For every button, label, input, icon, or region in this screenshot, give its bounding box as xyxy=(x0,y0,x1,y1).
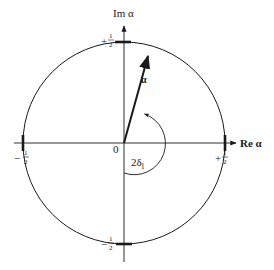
svg-text:1: 1 xyxy=(24,149,28,157)
tick-label-bottom: − 1 2 xyxy=(101,235,114,252)
svg-text:−: − xyxy=(101,238,107,250)
svg-text:−: − xyxy=(14,152,20,164)
svg-text:2: 2 xyxy=(223,158,227,166)
svg-text:+: + xyxy=(215,152,221,164)
tick-label-right: + 1 2 xyxy=(215,149,228,166)
angle-label: 2δl xyxy=(131,156,145,171)
svg-text:2: 2 xyxy=(109,41,113,49)
argand-diagram: Im α Re α 0 α 2δl + 1 2 − 1 2 + 1 2 − 1 … xyxy=(0,0,274,270)
svg-text:+: + xyxy=(101,35,107,47)
tick-label-left: − 1 2 xyxy=(14,149,29,166)
amplitude-vector xyxy=(124,56,148,143)
vector-label: α xyxy=(141,74,147,85)
svg-text:2: 2 xyxy=(109,244,113,252)
tick-label-top: + 1 2 xyxy=(101,32,114,49)
svg-text:1: 1 xyxy=(109,235,113,243)
svg-text:1: 1 xyxy=(109,32,113,40)
svg-text:2: 2 xyxy=(24,158,28,166)
real-axis-label: Re α xyxy=(240,137,263,149)
svg-text:1: 1 xyxy=(223,149,227,157)
origin-label: 0 xyxy=(113,143,119,155)
imag-axis-label: Im α xyxy=(113,7,134,19)
